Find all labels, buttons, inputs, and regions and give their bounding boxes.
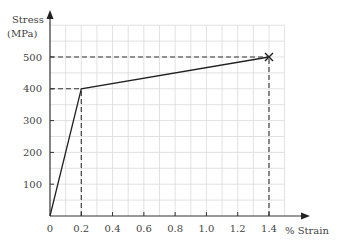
x-ticks: 00.20.40.60.81.01.21.4 (47, 212, 277, 234)
y-ticks: 100200300400500 (23, 52, 54, 190)
x-tick-label: 1.2 (230, 223, 246, 234)
x-axis-arrow-icon (301, 213, 310, 220)
y-tick-label: 300 (23, 115, 42, 126)
y-tick-label: 200 (23, 147, 42, 158)
x-tick-label: 1.0 (198, 223, 214, 234)
stress-strain-chart: 00.20.40.60.81.01.21.4 100200300400500 S… (0, 0, 337, 245)
grid (50, 25, 285, 216)
x-tick-label: 0.2 (73, 223, 89, 234)
y-tick-label: 400 (23, 83, 42, 94)
x-tick-label: 0.6 (136, 223, 152, 234)
y-axis-label-line1: Stress (12, 14, 44, 25)
y-tick-label: 100 (23, 179, 42, 190)
x-axis-label: % Strain (285, 225, 329, 236)
x-tick-label: 0.8 (167, 223, 183, 234)
y-axis-arrow-icon (47, 10, 54, 19)
y-tick-label: 500 (23, 52, 42, 63)
x-tick-label: 1.4 (261, 223, 277, 234)
y-axis-label-line2: (MPa) (7, 28, 37, 39)
x-tick-label: 0.4 (105, 223, 121, 234)
x-tick-label: 0 (47, 223, 53, 234)
